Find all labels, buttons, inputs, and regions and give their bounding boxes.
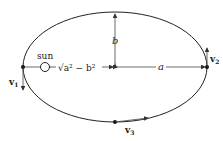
orbit-diagram: b a √a² − b² sun v1 v2 v3 <box>0 0 223 141</box>
focal-distance-label: √a² − b² <box>58 63 96 73</box>
semi-major-label: a <box>158 61 164 72</box>
sun-label: sun <box>37 51 53 61</box>
semi-minor-label: b <box>112 35 118 46</box>
v3-label: v3 <box>124 125 134 136</box>
sun-icon <box>41 63 50 72</box>
v2-label: v2 <box>209 54 219 65</box>
v1-label: v1 <box>8 77 18 88</box>
